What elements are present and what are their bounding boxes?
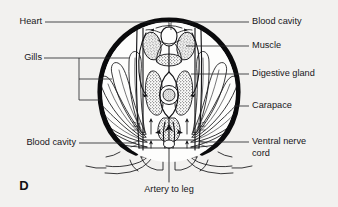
label-ventral-nerve-cord-line2: cord <box>252 148 270 158</box>
label-artery-to-leg: Artery to leg <box>144 184 194 194</box>
figure-canvas: Heart Gills Blood cavity Blood cavity Mu… <box>0 0 338 207</box>
label-gills: Gills <box>24 52 42 62</box>
label-blood-cavity-left: Blood cavity <box>26 137 76 147</box>
label-carapace: Carapace <box>252 100 292 110</box>
label-digestive-gland: Digestive gland <box>252 68 315 78</box>
figure-letter: D <box>19 178 28 193</box>
label-muscle: Muscle <box>252 40 281 50</box>
label-heart: Heart <box>20 16 43 26</box>
label-ventral-nerve-cord-line1: Ventral nerve <box>252 136 306 146</box>
label-blood-cavity-right: Blood cavity <box>252 16 302 26</box>
